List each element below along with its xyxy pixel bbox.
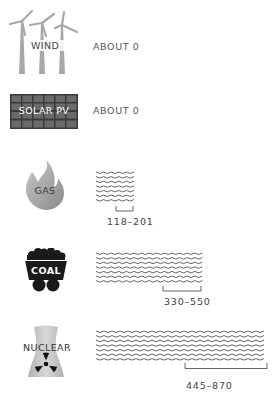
wave-pictogram [96,170,136,222]
category-label: WIND [26,40,64,51]
category-label: SOLAR PV [10,105,78,116]
row-coal: COAL 330–550 [0,235,280,315]
row-solar-pv: SOLAR PV ABOUT 0 [0,80,280,140]
value-label: ABOUT 0 [93,41,139,52]
wave-pictogram [96,329,272,383]
range-label: 118–201 [107,216,154,227]
range-label: 330–550 [164,296,211,307]
range-label: 445–870 [186,380,233,391]
row-nuclear: NUCLEAR 445–870 [0,315,280,411]
category-label: NUCLEAR [18,342,76,353]
category-label: GAS [26,185,64,196]
value-label: ABOUT 0 [93,105,139,116]
row-gas: GAS 118–201 [0,150,280,235]
row-wind: WIND ABOUT 0 [0,0,280,80]
category-label: COAL [26,265,66,276]
